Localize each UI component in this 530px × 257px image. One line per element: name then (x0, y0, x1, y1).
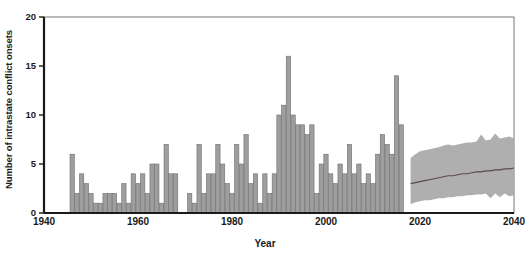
bar (347, 144, 351, 213)
bar (357, 164, 361, 213)
bar (141, 174, 145, 213)
bar (202, 193, 206, 213)
bar (126, 203, 130, 213)
bar (230, 193, 234, 213)
bar (70, 154, 74, 213)
bar (103, 193, 107, 213)
bar (282, 105, 286, 213)
bar (385, 144, 389, 213)
bar (263, 174, 267, 213)
plot-area (0, 0, 530, 257)
bar (376, 154, 380, 213)
bar (225, 184, 229, 213)
bar (380, 135, 384, 213)
bar (211, 174, 215, 213)
bar (197, 144, 201, 213)
bar (310, 125, 314, 213)
bar (192, 203, 196, 213)
bar (235, 144, 239, 213)
bar (131, 174, 135, 213)
bar (319, 164, 323, 213)
bar (206, 174, 210, 213)
bar (314, 193, 318, 213)
bar (216, 144, 220, 213)
bar (159, 203, 163, 213)
bar (150, 164, 154, 213)
bar (338, 164, 342, 213)
bar (145, 193, 149, 213)
bar (164, 144, 168, 213)
bar (155, 164, 159, 213)
bar (305, 135, 309, 213)
bar (291, 115, 295, 213)
bar (399, 125, 403, 213)
bar (188, 193, 192, 213)
bar (366, 174, 370, 213)
bar (296, 125, 300, 213)
bar (329, 174, 333, 213)
bar (390, 154, 394, 213)
bar (352, 174, 356, 213)
bar (343, 174, 347, 213)
bar (333, 184, 337, 213)
bar (117, 203, 121, 213)
conflict-onsets-figure: Number of intrastate conflict onsets Yea… (0, 0, 530, 257)
bar (300, 125, 304, 213)
bar (272, 174, 276, 213)
bar (253, 174, 257, 213)
bar (122, 184, 126, 213)
bar (84, 184, 88, 213)
bar (258, 203, 262, 213)
bar (98, 203, 102, 213)
bar (79, 174, 83, 213)
bar (239, 164, 243, 213)
bar (220, 164, 224, 213)
bar (75, 193, 79, 213)
bar (244, 135, 248, 213)
bar (173, 174, 177, 213)
forecast-uncertainty-band (411, 134, 514, 205)
bar (361, 184, 365, 213)
bar (169, 174, 173, 213)
bar (89, 193, 93, 213)
bar (136, 184, 140, 213)
bar (112, 193, 116, 213)
bar (267, 193, 271, 213)
bar (277, 115, 281, 213)
bar (108, 193, 112, 213)
bar-series (70, 56, 403, 213)
bar (286, 56, 290, 213)
bar (249, 184, 253, 213)
bar (94, 203, 98, 213)
bar (394, 76, 398, 213)
bar (324, 154, 328, 213)
bar (371, 184, 375, 213)
